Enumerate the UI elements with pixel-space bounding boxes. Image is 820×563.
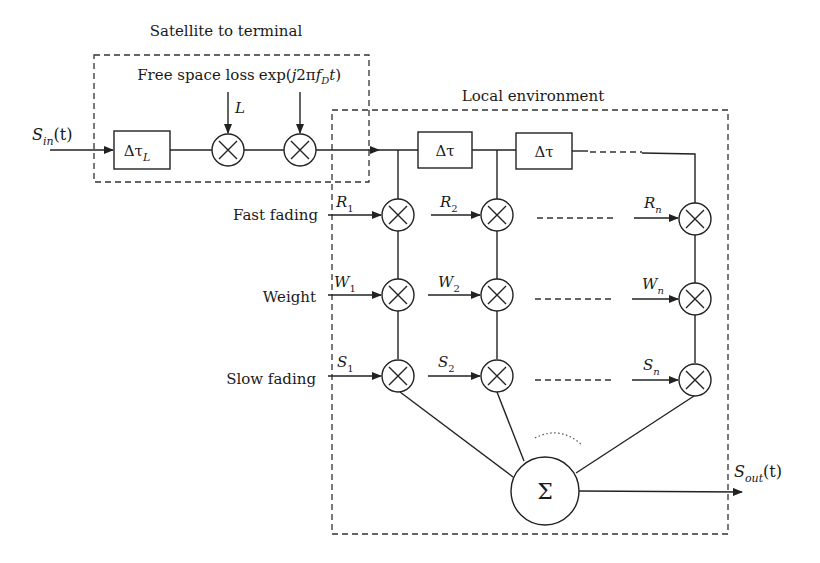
channel-model-diagram: Satellite to terminal Local environment … bbox=[0, 0, 820, 563]
svg-text:Δτ: Δτ bbox=[534, 143, 553, 161]
row-label-slow-fading: Slow fading bbox=[226, 370, 316, 388]
satellite-group-title: Satellite to terminal bbox=[150, 22, 303, 40]
tap-delay-2: Δτ bbox=[516, 133, 572, 169]
svg-text:S2: S2 bbox=[438, 353, 455, 374]
sum-input-n bbox=[576, 396, 694, 473]
tap-column-1: R1 W1 S1 bbox=[328, 193, 414, 392]
output-arrow bbox=[579, 491, 742, 492]
svg-text:W2: W2 bbox=[438, 273, 460, 294]
ellipsis-arc bbox=[535, 433, 582, 445]
svg-text:S1: S1 bbox=[337, 353, 354, 374]
svg-text:R2: R2 bbox=[439, 193, 458, 214]
input-signal: Sin(t) bbox=[32, 125, 113, 150]
tap-column-2: R2 W2 S2 bbox=[428, 193, 513, 392]
row-label-fast-fading: Fast fading bbox=[233, 206, 318, 224]
summer: Σ bbox=[511, 457, 579, 525]
output-signal: Sout(t) bbox=[579, 462, 782, 492]
svg-text:Δτ: Δτ bbox=[435, 142, 454, 160]
local-group-title: Local environment bbox=[462, 87, 604, 105]
svg-text:Sn: Sn bbox=[643, 356, 660, 377]
delay-block-L: ΔτL bbox=[114, 131, 170, 169]
doppler-caption: exp(j2πfDt) bbox=[259, 66, 341, 86]
sum-input-1 bbox=[400, 392, 513, 477]
svg-text:Σ: Σ bbox=[537, 479, 553, 504]
svg-text:W1: W1 bbox=[334, 273, 356, 294]
free-space-loss-caption: Free space loss bbox=[137, 66, 255, 84]
output-signal-label: Sout(t) bbox=[734, 462, 782, 485]
svg-text:Wn: Wn bbox=[642, 275, 664, 296]
sum-input-2 bbox=[497, 392, 524, 461]
input-signal-label: Sin(t) bbox=[32, 125, 73, 148]
svg-text:Rn: Rn bbox=[643, 194, 662, 215]
svg-text:R1: R1 bbox=[335, 193, 354, 214]
doppler-multiplier: exp(j2πfDt) bbox=[259, 66, 341, 166]
tap-delay-1: Δτ bbox=[418, 132, 472, 168]
row-label-weight: Weight bbox=[263, 288, 316, 306]
loss-input-label: L bbox=[234, 99, 245, 117]
tap-column-n: Rn Wn Sn bbox=[632, 194, 711, 396]
